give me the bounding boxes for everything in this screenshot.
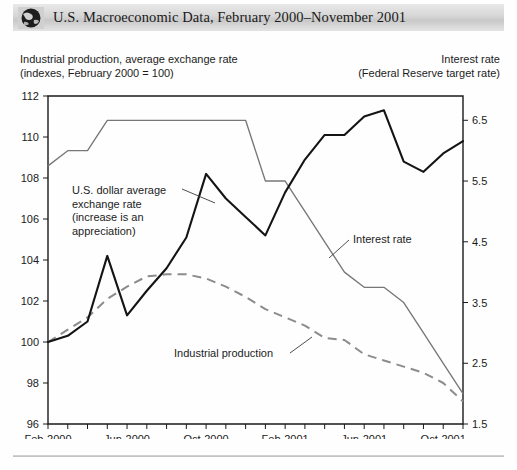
svg-text:Feb-2001: Feb-2001 [262,433,309,439]
svg-text:Feb-2000: Feb-2000 [24,433,71,439]
globe-icon [18,7,44,29]
svg-text:6.5: 6.5 [472,114,487,126]
x-axis-labels: Feb-2000Jun-2000Oct-2000Feb-2001Jun-2001… [24,433,465,439]
svg-text:106: 106 [21,213,39,225]
x-axis-ticks [48,424,463,429]
svg-text:1.5: 1.5 [472,418,487,430]
chart-svg: 9698100102104106108110112 1.52.53.54.55.… [0,84,517,439]
figure-title-bar: U.S. Macroeconomic Data, February 2000–N… [13,4,504,31]
svg-text:Jun-2001: Jun-2001 [341,433,387,439]
plot-frame [48,96,463,424]
svg-text:Jun-2000: Jun-2000 [104,433,150,439]
svg-text:112: 112 [21,90,39,102]
series-industrial-production [48,274,463,401]
svg-text:96: 96 [27,418,39,430]
chart-plot-area: 9698100102104106108110112 1.52.53.54.55.… [0,84,517,439]
svg-text:102: 102 [21,295,39,307]
svg-text:Oct-2000: Oct-2000 [183,433,228,439]
svg-text:5.5: 5.5 [472,175,487,187]
annotation-industrial-production-text: Industrial production [174,347,273,359]
annotation-interest-rate-text: Interest rate [353,233,412,245]
svg-text:100: 100 [21,336,39,348]
annotation-industrial-production-leader [290,337,312,353]
y-axis-right-ticks: 1.52.53.54.55.56.5 [463,114,487,430]
svg-text:108: 108 [21,172,39,184]
chart-figure: U.S. Macroeconomic Data, February 2000–N… [0,0,517,470]
bottom-divider [13,455,504,457]
svg-text:Oct-2001: Oct-2001 [421,433,466,439]
left-axis-caption: Industrial production, average exchange … [20,52,238,80]
annotation-exchange-rate: U.S. dollar averageexchange rate(increas… [72,184,215,237]
svg-text:98: 98 [27,377,39,389]
figure-title: U.S. Macroeconomic Data, February 2000–N… [53,9,406,26]
annotation-industrial-production: Industrial production [174,337,312,359]
svg-text:104: 104 [21,254,39,266]
right-axis-caption: Interest rate (Federal Reserve target ra… [358,52,500,80]
svg-text:3.5: 3.5 [472,297,487,309]
svg-text:110: 110 [21,131,39,143]
annotation-interest-rate: Interest rate [329,233,412,258]
svg-text:4.5: 4.5 [472,236,487,248]
annotation-interest-rate-leader [329,240,349,258]
annotation-exchange-rate-text: U.S. dollar averageexchange rate(increas… [72,184,166,237]
svg-text:2.5: 2.5 [472,357,487,369]
y-axis-left-ticks: 9698100102104106108110112 [21,90,48,430]
